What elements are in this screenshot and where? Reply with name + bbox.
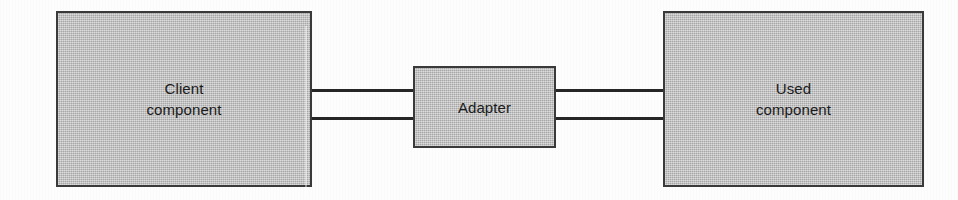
node-used-component-label: Used component (756, 78, 831, 120)
node-adapter-label: Adapter (458, 97, 511, 118)
connector-client-adapter-bottom (312, 117, 413, 120)
connector-client-adapter-top (312, 89, 413, 92)
node-adapter[interactable]: Adapter (413, 66, 556, 148)
connector-adapter-used-top (556, 89, 663, 92)
diagram-canvas: Client component Adapter Used component (0, 0, 958, 200)
node-client-component[interactable]: Client component (56, 11, 312, 187)
scan-streak-artifact (305, 26, 307, 198)
node-used-component[interactable]: Used component (663, 11, 924, 187)
node-client-component-label: Client component (146, 78, 221, 120)
connector-adapter-used-bottom (556, 117, 663, 120)
